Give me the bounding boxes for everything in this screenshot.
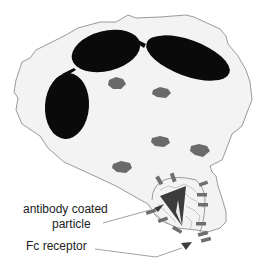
fc-receptor bbox=[197, 193, 207, 197]
receptor-leader-line-2 bbox=[156, 248, 182, 257]
fc-receptor bbox=[198, 203, 208, 207]
fc-receptor-marker bbox=[181, 242, 192, 250]
diagram-canvas bbox=[0, 0, 269, 264]
fc-receptor bbox=[198, 231, 209, 237]
fc-receptor bbox=[196, 222, 206, 226]
fc-receptor bbox=[201, 237, 212, 243]
label-fc-receptor: Fc receptor bbox=[26, 240, 87, 253]
particle-leader-line bbox=[103, 210, 150, 223]
receptor-leader-line bbox=[95, 249, 156, 257]
label-particle: particle bbox=[52, 218, 91, 231]
label-antibody-coated: antibody coated bbox=[23, 203, 108, 216]
